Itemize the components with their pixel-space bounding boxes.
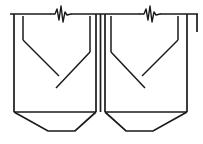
left-hopper-bottom-chamfer bbox=[14, 112, 96, 131]
left-hopper-inner-vee-right-stroke bbox=[56, 52, 90, 88]
right-hopper bbox=[105, 14, 187, 131]
right-hopper-inner-vee-right-stroke bbox=[142, 40, 178, 76]
left-hopper bbox=[14, 14, 96, 131]
break-symbol-left-icon bbox=[51, 6, 71, 22]
left-hopper-inner-vee-left-stroke bbox=[23, 40, 59, 76]
technical-drawing-canvas bbox=[0, 0, 203, 144]
right-hopper-bottom-chamfer bbox=[105, 112, 187, 131]
line-drawing bbox=[0, 0, 203, 144]
break-symbol-right-icon bbox=[140, 6, 160, 22]
right-hopper-inner-vee-left-stroke bbox=[111, 52, 145, 88]
